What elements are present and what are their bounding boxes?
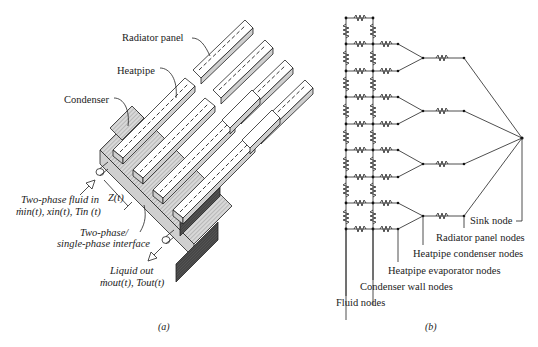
label-radiator-panel: Radiator panel bbox=[122, 32, 184, 43]
label-inlet-line2: ṁin(t), xin(t), Tin (t) bbox=[16, 206, 101, 218]
panel-a-isometric-drawing: Radiator panel Heatpipe Condenser Two-ph… bbox=[16, 20, 313, 333]
panel-b-thermal-network: Sink node Radiator panel nodes Heatpipe … bbox=[336, 15, 525, 333]
outlet-arrow bbox=[148, 247, 162, 261]
figure-canvas: Radiator panel Heatpipe Condenser Two-ph… bbox=[0, 0, 538, 347]
label-condenser-wall-nodes: Condenser wall nodes bbox=[360, 281, 453, 292]
label-outlet-line1: Liquid out bbox=[109, 265, 155, 276]
label-inlet-line1: Two-phase fluid in bbox=[21, 194, 99, 205]
radiator-sink-links bbox=[464, 58, 524, 221]
label-condenser: Condenser bbox=[64, 94, 109, 105]
heatpipes bbox=[113, 78, 255, 224]
caption-a: (a) bbox=[158, 321, 170, 333]
caption-b: (b) bbox=[425, 321, 437, 333]
radiator-panel-leader bbox=[192, 38, 210, 56]
label-radiator-panel-nodes: Radiator panel nodes bbox=[436, 232, 525, 243]
heatpipe-branches bbox=[373, 41, 465, 232]
label-interface-line2: single-phase interface bbox=[57, 238, 150, 249]
label-outlet-line2: ṁout(t), Tout(t) bbox=[100, 277, 165, 289]
fluid-wall-resistors bbox=[346, 15, 373, 232]
label-interface-line1: Two-phase/ bbox=[80, 227, 129, 238]
label-fluid-nodes: Fluid nodes bbox=[336, 297, 385, 308]
label-sink-node: Sink node bbox=[470, 215, 513, 226]
label-heatpipe-evaporator-nodes: Heatpipe evaporator nodes bbox=[388, 265, 501, 276]
interface-leader bbox=[140, 205, 145, 232]
label-heatpipe-condenser-nodes: Heatpipe condenser nodes bbox=[413, 248, 523, 259]
label-z: Z(t) bbox=[108, 192, 124, 204]
inlet-arrow bbox=[80, 180, 95, 195]
label-heatpipe: Heatpipe bbox=[117, 65, 155, 76]
